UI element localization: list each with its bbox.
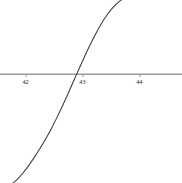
plot-canvas bbox=[0, 0, 182, 183]
plot-figure: 0.0060.0040.0020-0.002-0.004-0.006-0.008… bbox=[0, 0, 182, 183]
data-curve-series-1 bbox=[13, 0, 182, 183]
x-tick-label: 42 bbox=[16, 79, 36, 85]
x-tick-label: 44 bbox=[129, 79, 149, 85]
x-tick-label: 43 bbox=[72, 79, 92, 85]
